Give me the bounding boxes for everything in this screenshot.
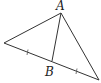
- label-B: B: [44, 65, 54, 79]
- label-A: A: [55, 0, 65, 13]
- tick-mark-right: [76, 69, 77, 75]
- side-left-A: [4, 13, 61, 43]
- triangle-diagram: A B: [0, 0, 101, 83]
- segment-A-B: [52, 13, 61, 61]
- side-A-right: [61, 13, 99, 80]
- tick-mark-left: [27, 50, 28, 56]
